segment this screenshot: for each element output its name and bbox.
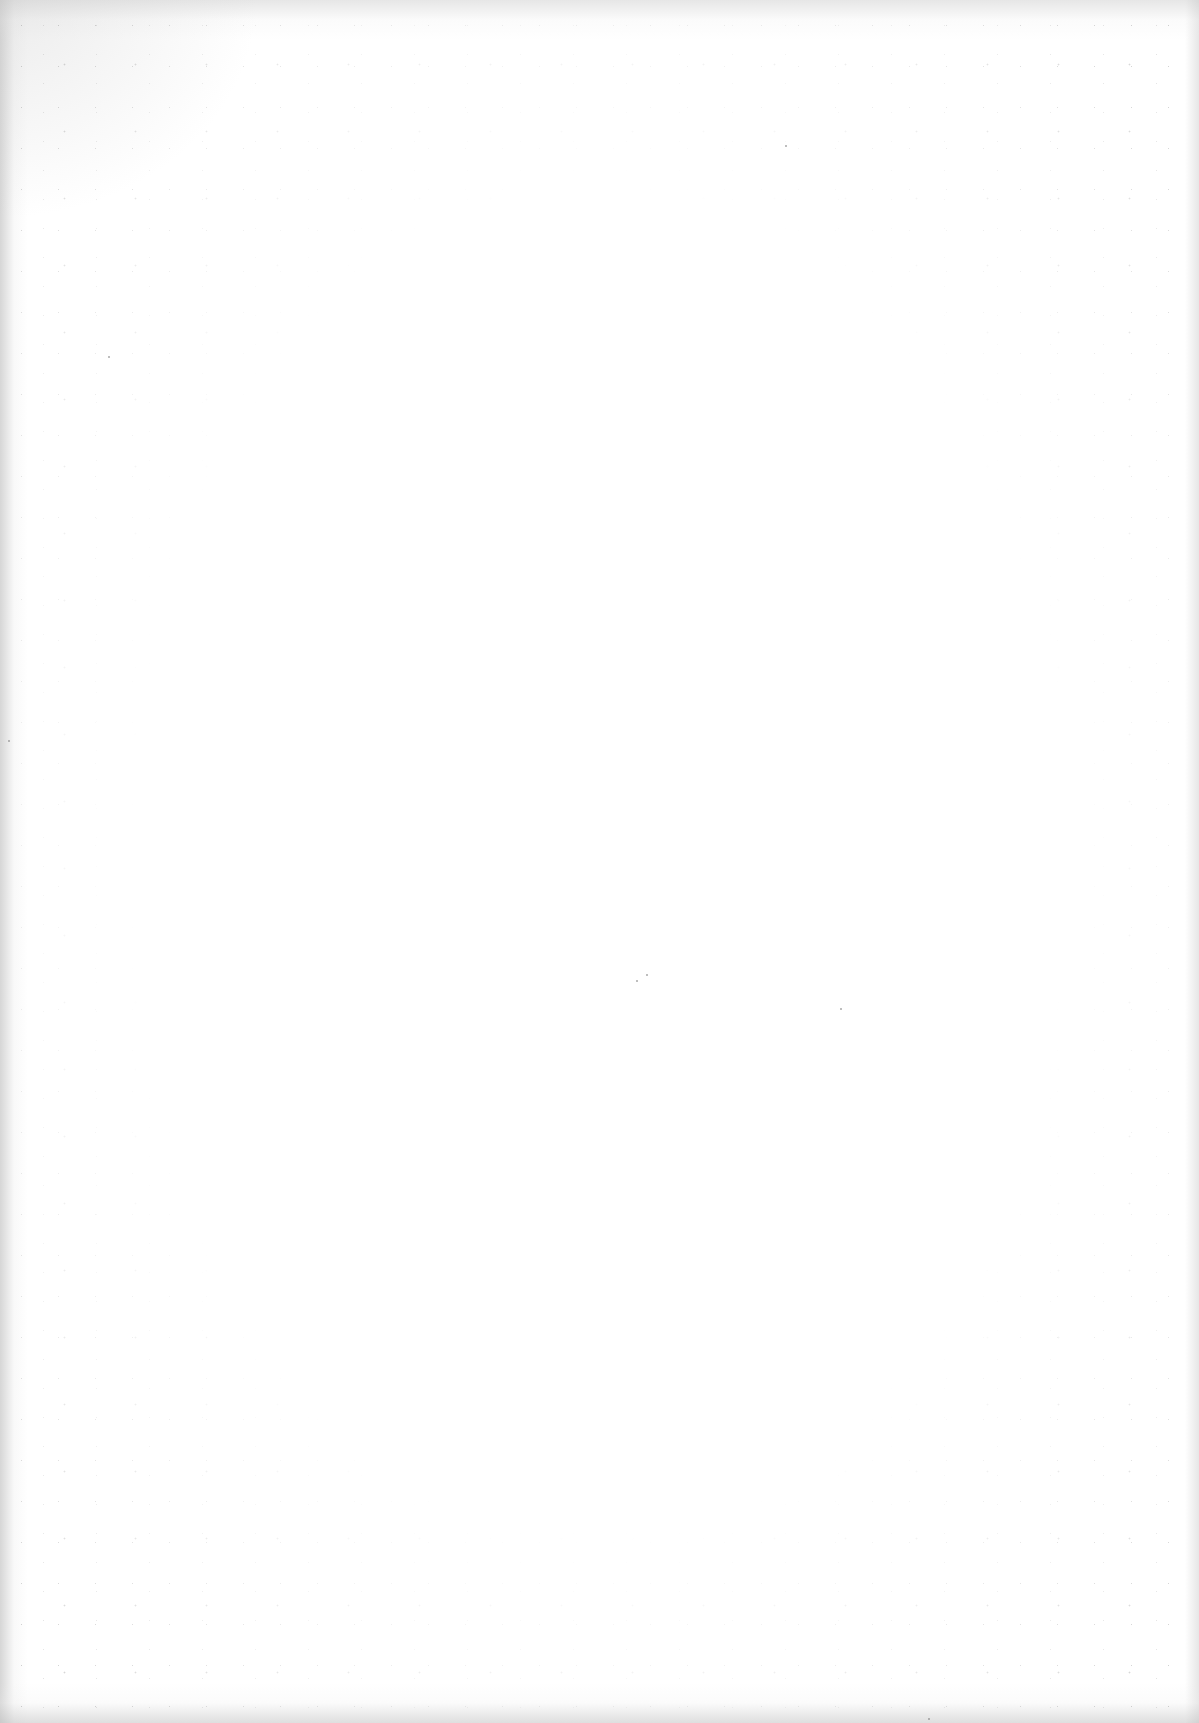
scan-shadow-left <box>0 0 28 1723</box>
scan-shadow-top <box>0 0 1199 40</box>
speck <box>108 356 110 358</box>
scan-shadow-right <box>1185 0 1199 1723</box>
speck <box>646 974 648 976</box>
speck <box>636 980 638 982</box>
scan-noise <box>0 0 1199 1723</box>
speck <box>928 1718 930 1720</box>
speck <box>8 740 10 742</box>
scan-shadow-corner <box>0 0 260 220</box>
speck <box>840 1008 842 1010</box>
blank-scanned-page <box>0 0 1199 1723</box>
scan-shadow-bottom <box>0 1683 1199 1723</box>
speck <box>785 145 787 147</box>
